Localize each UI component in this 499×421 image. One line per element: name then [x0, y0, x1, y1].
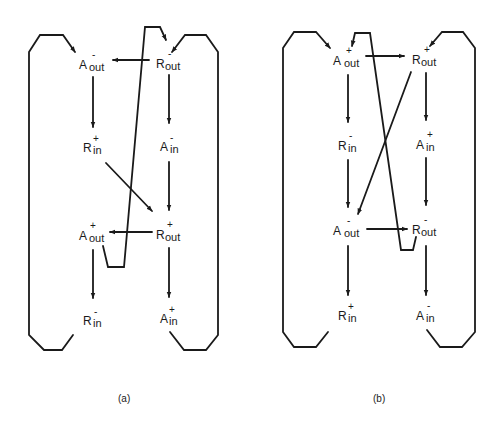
signal-transition-graph-figure: A - out R - out R + in A - in A + out R …: [0, 0, 499, 421]
svg-text:+: +: [169, 304, 175, 315]
edge-a-ain-plus-to-rout-minus: [170, 35, 218, 350]
svg-text:-: -: [427, 300, 430, 311]
svg-text:+: +: [427, 129, 433, 140]
svg-text:in: in: [348, 312, 357, 324]
svg-text:R: R: [83, 141, 92, 155]
svg-text:+: +: [348, 301, 354, 312]
svg-text:A: A: [416, 138, 424, 152]
svg-text:A: A: [160, 140, 168, 154]
svg-text:out: out: [165, 60, 180, 72]
node-a-rin-minus: R - in: [83, 306, 102, 329]
svg-text:A: A: [416, 309, 424, 323]
svg-text:+: +: [424, 44, 430, 55]
node-a-rout-plus: R + out: [156, 219, 180, 243]
node-b-rin-minus: R - in: [338, 130, 357, 154]
panel-b: A + out R + out R - in A + in A - out R …: [283, 32, 475, 404]
svg-text:out: out: [89, 232, 104, 244]
caption-b: (b): [373, 393, 385, 404]
svg-text:-: -: [170, 132, 173, 143]
edge-a-rin-minus-to-aout-minus: [29, 35, 75, 350]
svg-text:in: in: [169, 315, 178, 327]
svg-text:A: A: [79, 229, 87, 243]
svg-text:R: R: [412, 223, 421, 237]
svg-text:+: +: [346, 45, 352, 56]
svg-text:in: in: [426, 312, 435, 324]
svg-text:out: out: [421, 56, 436, 68]
svg-text:-: -: [347, 215, 350, 226]
svg-text:+: +: [167, 219, 173, 230]
panel-a: A - out R - out R + in A - in A + out R …: [29, 27, 218, 404]
caption-a: (a): [118, 393, 130, 404]
edge-b-rin-plus-to-aout-plus: [283, 32, 330, 347]
svg-text:-: -: [168, 48, 171, 59]
node-b-ain-minus: A - in: [416, 300, 435, 324]
svg-text:out: out: [344, 227, 359, 239]
node-b-ain-plus: A + in: [416, 129, 435, 153]
svg-text:+: +: [90, 220, 96, 231]
node-b-rout-plus: R + out: [412, 44, 436, 68]
svg-text:-: -: [349, 130, 352, 141]
svg-text:R: R: [83, 314, 92, 328]
svg-text:in: in: [93, 144, 102, 156]
edge-b-rout-minus-to-aout-plus: [352, 33, 416, 250]
svg-text:R: R: [156, 57, 165, 71]
edge-b-rout-plus-to-aout-minus: [358, 72, 411, 214]
svg-text:+: +: [93, 133, 99, 144]
node-a-rin-plus: R + in: [83, 133, 102, 156]
svg-text:A: A: [333, 224, 341, 238]
svg-text:-: -: [424, 214, 427, 225]
svg-text:A: A: [79, 58, 87, 72]
node-b-rout-minus: R - out: [412, 214, 436, 238]
svg-text:in: in: [426, 141, 435, 153]
edge-b-ain-minus-to-rout-plus: [427, 32, 475, 347]
node-b-rin-plus: R + in: [338, 301, 357, 324]
node-a-rout-minus: R - out: [156, 48, 180, 72]
svg-text:-: -: [92, 49, 95, 60]
svg-text:R: R: [156, 228, 165, 242]
svg-text:R: R: [412, 53, 421, 67]
svg-text:in: in: [93, 317, 102, 329]
node-b-aout-minus: A - out: [333, 215, 359, 239]
svg-text:A: A: [160, 312, 168, 326]
svg-text:out: out: [344, 57, 359, 69]
node-a-ain-minus: A - in: [160, 132, 179, 155]
svg-text:out: out: [165, 231, 180, 243]
svg-text:in: in: [348, 142, 357, 154]
svg-text:A: A: [333, 54, 341, 68]
node-a-aout-minus: A - out: [79, 49, 104, 73]
node-b-aout-plus: A + out: [333, 45, 359, 69]
svg-text:-: -: [94, 306, 97, 317]
node-a-aout-plus: A + out: [79, 220, 104, 244]
svg-text:out: out: [89, 61, 104, 73]
svg-text:out: out: [421, 226, 436, 238]
svg-text:R: R: [338, 309, 347, 323]
svg-text:R: R: [338, 139, 347, 153]
node-a-ain-plus: A + in: [160, 304, 178, 327]
svg-text:in: in: [170, 143, 179, 155]
